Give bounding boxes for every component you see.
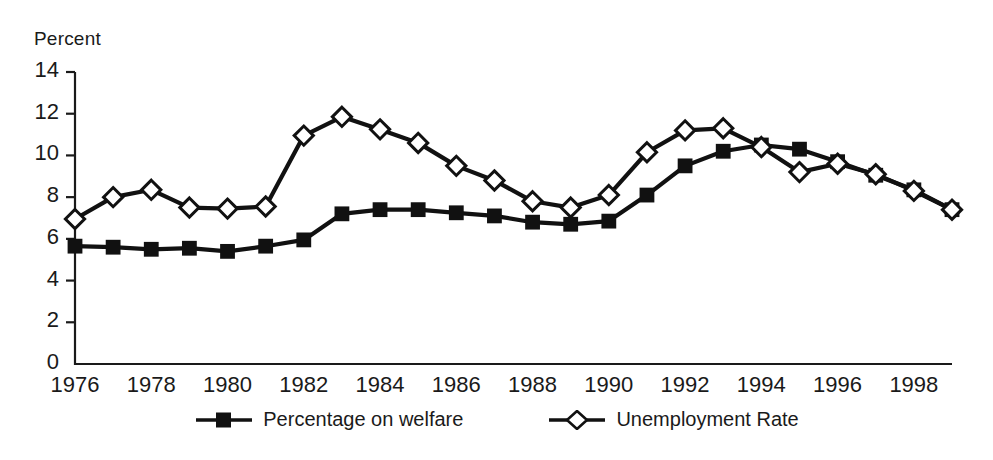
- y-tick-label: 14: [13, 57, 59, 83]
- filled-square-marker-icon: [194, 410, 254, 430]
- chart-legend: Percentage on welfare Unemployment Rate: [0, 408, 993, 431]
- y-tick-label: 6: [13, 224, 59, 250]
- y-tick-label: 8: [13, 182, 59, 208]
- chart-series-unemployment: [65, 107, 961, 228]
- legend-label-welfare: Percentage on welfare: [263, 408, 463, 431]
- chart-series-layer: [65, 107, 961, 259]
- y-tick-label: 4: [13, 266, 59, 292]
- y-tick-label: 2: [13, 307, 59, 333]
- chart-series-welfare: [68, 138, 960, 259]
- chart-axis-ticks: [66, 72, 75, 322]
- legend-item-welfare: Percentage on welfare: [194, 408, 463, 431]
- open-diamond-marker-icon: [547, 410, 607, 430]
- x-tick-label: 1998: [869, 372, 959, 398]
- chart-figure: Percent 02468101214 19761978198019821984…: [0, 0, 993, 460]
- legend-item-unemployment: Unemployment Rate: [547, 408, 798, 431]
- y-tick-label: 10: [13, 140, 59, 166]
- legend-label-unemployment: Unemployment Rate: [616, 408, 798, 431]
- y-tick-label: 12: [13, 99, 59, 125]
